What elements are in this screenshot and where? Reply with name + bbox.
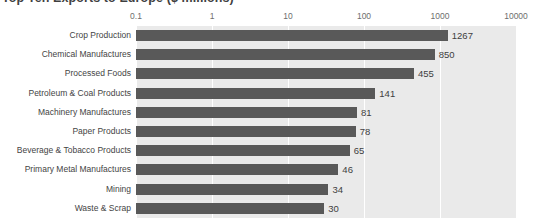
bar-value-label: 455: [414, 64, 434, 83]
bar-row: Mining34: [0, 180, 533, 199]
x-tick-label: 10: [283, 11, 292, 22]
category-label: Mining: [106, 180, 131, 199]
x-tick-label: 10000: [504, 11, 528, 22]
category-label: Paper Products: [72, 122, 131, 141]
bar: [136, 88, 375, 99]
bar-row: Beverage & Tobacco Products65: [0, 141, 533, 160]
bar: [136, 203, 324, 214]
bar-row: Machinery Manufactures81: [0, 103, 533, 122]
bar-value-label: 46: [338, 160, 353, 179]
bar-value-label: 141: [375, 84, 395, 103]
bar-row: Petroleum & Coal Products141: [0, 84, 533, 103]
bar: [136, 30, 448, 41]
bar: [136, 49, 435, 60]
bar-rows: Crop Production1267Chemical Manufactures…: [0, 26, 533, 218]
bar-value-label: 78: [356, 122, 371, 141]
bar-value-label: 1267: [448, 26, 473, 45]
bar-row: Primary Metal Manufactures46: [0, 160, 533, 179]
bar-row: Crop Production1267: [0, 26, 533, 45]
bar: [136, 145, 350, 156]
bar: [136, 107, 357, 118]
bar-row: Paper Products78: [0, 122, 533, 141]
x-tick-label: 0.1: [130, 11, 142, 22]
bar-row: Processed Foods455: [0, 64, 533, 83]
bar-value-label: 65: [350, 141, 365, 160]
x-tick-label: 1000: [431, 11, 450, 22]
bar: [136, 164, 338, 175]
bar-value-label: 30: [324, 199, 339, 218]
bar: [136, 126, 356, 137]
bar: [136, 184, 328, 195]
category-label: Processed Foods: [65, 64, 131, 83]
category-label: Beverage & Tobacco Products: [17, 141, 131, 160]
bar-row: Waste & Scrap30: [0, 199, 533, 218]
category-label: Primary Metal Manufactures: [25, 160, 131, 179]
category-label: Chemical Manufactures: [42, 45, 131, 64]
bar-value-label: 34: [328, 180, 343, 199]
bar-value-label: 81: [357, 103, 372, 122]
bar-value-label: 850: [435, 45, 455, 64]
category-label: Machinery Manufactures: [38, 103, 131, 122]
bar: [136, 68, 414, 79]
chart-title: Top Ten Exports to Europe ($ millions): [2, 0, 234, 5]
bar-chart: Top Ten Exports to Europe ($ millions) 0…: [0, 0, 533, 221]
category-label: Petroleum & Coal Products: [28, 84, 131, 103]
category-label: Crop Production: [70, 26, 131, 45]
x-tick-label: 1: [210, 11, 215, 22]
bar-row: Chemical Manufactures850: [0, 45, 533, 64]
x-tick-label: 100: [357, 11, 371, 22]
x-axis-tick-labels: 0.1110100100010000: [0, 11, 533, 24]
category-label: Waste & Scrap: [75, 199, 131, 218]
